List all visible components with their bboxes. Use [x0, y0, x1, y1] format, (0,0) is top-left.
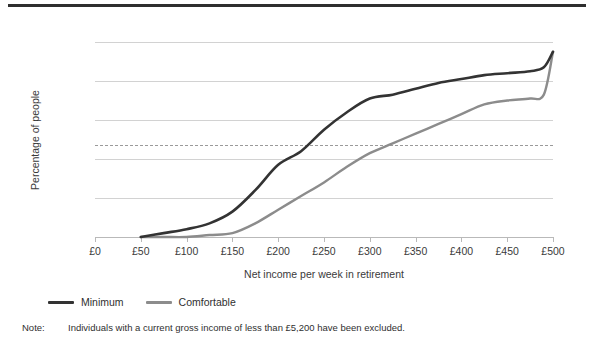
x-tick-label-4: £200: [267, 245, 290, 257]
x-axis-label: Net income per week in retirement: [95, 268, 553, 280]
x-tick-label-2: £100: [175, 245, 198, 257]
legend-label-minimum: Minimum: [81, 296, 124, 308]
x-tick-mark-5: [324, 237, 325, 242]
x-tick-label-8: £400: [450, 245, 473, 257]
figure-container: 100% 80% 60% 40% 20% 0% Percentage of pe…: [0, 0, 592, 342]
x-tick-mark-3: [232, 237, 233, 242]
legend-item-comfortable[interactable]: Comfortable: [146, 296, 236, 308]
x-tick-mark-8: [461, 237, 462, 242]
x-tick-label-7: £350: [404, 245, 427, 257]
y-axis-label: Percentage of people: [29, 40, 41, 240]
x-tick-mark-9: [507, 237, 508, 242]
x-tick-label-3: £150: [221, 245, 244, 257]
x-tick-label-6: £300: [358, 245, 381, 257]
x-tick-label-9: £450: [496, 245, 519, 257]
top-divider-rule: [8, 4, 586, 7]
plot-area: 100% 80% 60% 40% 20% 0% Percentage of pe…: [95, 42, 553, 237]
x-tick-label-5: £250: [312, 245, 335, 257]
legend-label-comfortable: Comfortable: [179, 296, 236, 308]
x-tick-mark-6: [370, 237, 371, 242]
x-tick-label-0: £0: [89, 245, 101, 257]
chart-legend: Minimum Comfortable: [48, 296, 236, 308]
x-tick-mark-0: [95, 237, 96, 242]
line-comfortable: [141, 52, 553, 237]
note-text: Individuals with a current gross income …: [68, 322, 405, 333]
legend-swatch-minimum: [48, 301, 74, 304]
line-minimum: [141, 52, 553, 237]
x-tick-label-10: £500: [541, 245, 564, 257]
legend-swatch-comfortable: [146, 301, 172, 304]
series-svg: [95, 42, 553, 237]
figure-note: Note: Individuals with a current gross i…: [22, 322, 405, 333]
x-tick-mark-10: [553, 237, 554, 242]
note-label: Note:: [22, 322, 50, 333]
x-tick-mark-4: [278, 237, 279, 242]
x-tick-mark-7: [416, 237, 417, 242]
x-tick-label-1: £50: [132, 245, 150, 257]
legend-item-minimum[interactable]: Minimum: [48, 296, 124, 308]
